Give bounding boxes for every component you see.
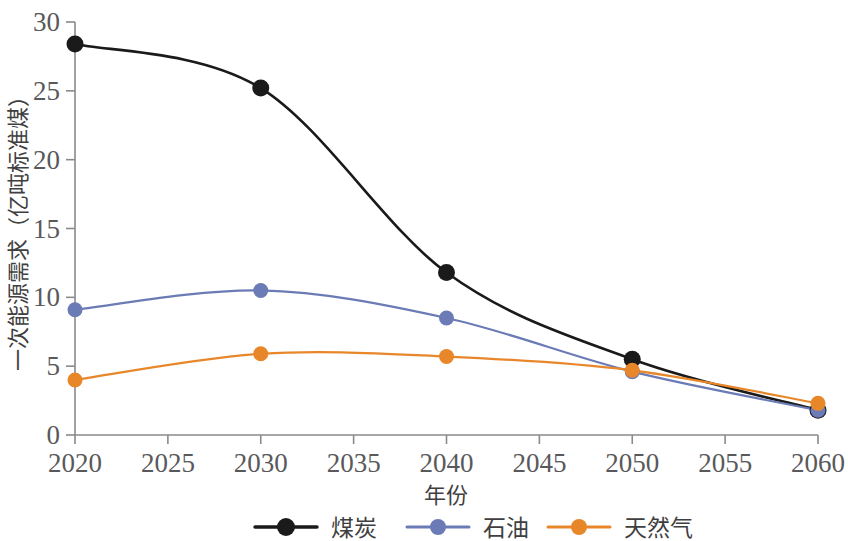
x-tick-label: 2030 bbox=[234, 448, 288, 478]
y-tick-label: 0 bbox=[47, 420, 61, 450]
x-tick-label: 2025 bbox=[141, 448, 195, 478]
legend-marker-2 bbox=[571, 519, 587, 535]
line-chart: 051015202530 202020252030203520402045205… bbox=[0, 0, 848, 541]
x-tick-label: 2040 bbox=[420, 448, 474, 478]
data-point-marker bbox=[67, 36, 84, 53]
legend-label-0: 煤炭 bbox=[331, 515, 377, 541]
x-axis-ticks: 202020252030203520402045205020552060 bbox=[48, 435, 845, 478]
chart-container: 051015202530 202020252030203520402045205… bbox=[0, 0, 848, 541]
y-tick-label: 15 bbox=[33, 214, 60, 244]
y-tick-label: 20 bbox=[33, 145, 60, 175]
x-tick-label: 2020 bbox=[48, 448, 102, 478]
data-point-marker bbox=[253, 283, 268, 298]
y-tick-label: 5 bbox=[47, 351, 61, 381]
data-point-marker bbox=[68, 372, 83, 387]
chart-legend: 煤炭石油天然气 bbox=[255, 515, 693, 541]
x-tick-label: 2060 bbox=[791, 448, 845, 478]
legend-marker-1 bbox=[430, 519, 446, 535]
x-tick-label: 2045 bbox=[512, 448, 566, 478]
y-tick-label: 10 bbox=[33, 282, 60, 312]
x-axis-title: 年份 bbox=[424, 483, 468, 508]
x-tick-label: 2035 bbox=[327, 448, 381, 478]
y-axis-title: 一次能源需求（亿吨标准煤） bbox=[6, 85, 31, 371]
data-point-marker bbox=[438, 264, 455, 281]
data-point-marker bbox=[625, 363, 640, 378]
data-point-marker bbox=[439, 310, 454, 325]
data-point-marker bbox=[811, 396, 826, 411]
x-tick-label: 2050 bbox=[605, 448, 659, 478]
x-tick-label: 2055 bbox=[698, 448, 752, 478]
legend-marker-0 bbox=[277, 518, 295, 536]
legend-label-1: 石油 bbox=[483, 515, 529, 541]
y-tick-label: 30 bbox=[33, 7, 60, 37]
y-tick-label: 25 bbox=[33, 76, 60, 106]
data-point-marker bbox=[253, 346, 268, 361]
data-point-marker bbox=[439, 349, 454, 364]
marker-layer bbox=[67, 36, 827, 419]
data-point-marker bbox=[68, 302, 83, 317]
legend-label-2: 天然气 bbox=[624, 515, 693, 541]
data-point-marker bbox=[252, 80, 269, 97]
